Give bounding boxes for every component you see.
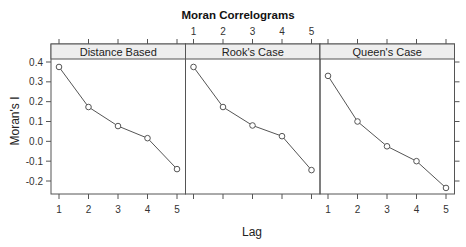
data-point-marker [56,64,62,70]
panel-rook-s-case: Rook's Case12345 [186,26,321,199]
y-tick-label: 0.3 [29,76,43,87]
x-tick-label: 4 [145,204,151,215]
y-tick-label: 0.4 [29,57,43,68]
y-tick-label: -0.1 [26,156,44,167]
series-line [328,76,446,188]
x-axis-label: Lag [242,225,262,239]
x-tick-label-top: 2 [220,26,226,37]
panels-group: Distance Based12345Rook's Case12345Queen… [51,26,455,215]
y-tick-label: 0.2 [29,96,43,107]
data-point-marker [355,119,361,125]
x-tick-label: 3 [384,204,390,215]
series-line [59,67,177,169]
panel-distance-based: Distance Based12345 [51,39,186,215]
data-point-marker [250,123,256,129]
panel-border [320,44,455,194]
y-tick-label: 0.1 [29,116,43,127]
data-point-marker [384,143,390,149]
y-tick-label: -0.2 [26,176,44,187]
data-point-marker [115,123,121,129]
data-point-marker [174,166,180,172]
x-tick-label: 2 [355,204,361,215]
data-point-marker [414,158,420,164]
x-tick-label-top: 5 [309,26,315,37]
x-tick-label: 2 [86,204,92,215]
data-point-marker [309,167,315,173]
chart-title: Moran Correlograms [181,9,294,21]
moran-correlogram-chart: Moran Correlograms Lag Moran's I Distanc… [0,0,466,247]
x-tick-label: 1 [56,204,62,215]
data-point-marker [145,135,151,141]
x-tick-label: 4 [414,204,420,215]
x-tick-label: 1 [325,204,331,215]
data-point-marker [443,185,449,191]
x-tick-label-top: 3 [250,26,256,37]
panel-border [51,44,186,194]
panel-strip-label: Distance Based [80,46,157,58]
x-tick-label: 5 [174,204,180,215]
data-point-marker [191,64,197,70]
data-point-marker [220,104,226,110]
x-tick-label: 5 [443,204,449,215]
x-tick-label-top: 4 [279,26,285,37]
data-point-marker [325,73,331,79]
panel-queen-s-case: Queen's Case12345 [320,39,455,215]
panel-strip-label: Rook's Case [222,46,284,58]
y-tick-label: 0.0 [29,136,43,147]
x-tick-label: 3 [115,204,121,215]
y-axis-label: Moran's I [8,97,22,146]
data-point-marker [279,133,285,139]
data-point-marker [86,104,92,110]
y-axis: 0.40.30.20.10.0-0.1-0.2 [26,57,460,187]
series-line [194,67,312,170]
panel-border [186,44,321,194]
x-tick-label-top: 1 [191,26,197,37]
panel-strip-label: Queen's Case [353,46,422,58]
